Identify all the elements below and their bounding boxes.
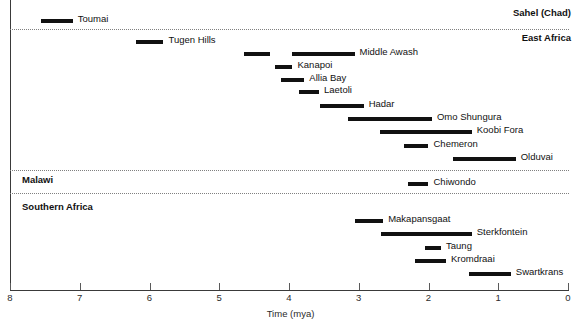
- site-bar-tugen-hills: [136, 40, 164, 44]
- x-tick-2: [429, 283, 430, 290]
- site-label-swartkrans: Swartkrans: [516, 266, 564, 277]
- x-tick-label-1: 1: [496, 292, 501, 303]
- x-tick-label-7: 7: [77, 292, 82, 303]
- divider-divider-1: [10, 29, 569, 30]
- site-label-hadar: Hadar: [369, 98, 395, 109]
- site-bar-swartkrans: [469, 272, 511, 276]
- site-label-kanapoi: Kanapoi: [297, 59, 332, 70]
- site-bar-taung: [425, 246, 441, 250]
- site-bar-kromdraai: [415, 259, 446, 263]
- divider-divider-2: [10, 170, 569, 171]
- site-label-laetoli: Laetoli: [324, 84, 352, 95]
- region-label-malawi: Malawi: [22, 174, 53, 185]
- site-bar-sterkfontein: [381, 232, 472, 236]
- site-label-chemeron: Chemeron: [434, 138, 478, 149]
- site-bar-middle-awash-seg1: [244, 52, 271, 56]
- site-label-olduvai: Olduvai: [521, 151, 553, 162]
- region-label-sahel-chad: Sahel (Chad): [513, 7, 571, 18]
- x-tick-8: [10, 283, 11, 290]
- fossil-site-timeline-chart: 876543210 Sahel (Chad)East AfricaMalawiS…: [0, 0, 581, 325]
- x-tick-0: [568, 283, 569, 290]
- site-label-omo-shungura: Omo Shungura: [437, 111, 501, 122]
- site-label-kromdraai: Kromdraai: [451, 253, 495, 264]
- site-bar-hadar: [320, 104, 363, 108]
- site-bar-middle-awash-seg2: [292, 52, 355, 56]
- region-label-east-africa: East Africa: [522, 32, 571, 43]
- x-tick-3: [359, 283, 360, 290]
- x-tick-1: [498, 283, 499, 290]
- site-label-chiwondo: Chiwondo: [434, 176, 476, 187]
- x-tick-6: [150, 283, 151, 290]
- x-tick-label-6: 6: [147, 292, 152, 303]
- site-label-tugen-hills: Tugen Hills: [168, 34, 215, 45]
- x-tick-5: [219, 283, 220, 290]
- site-bar-allia-bay: [281, 78, 305, 82]
- x-tick-label-5: 5: [217, 292, 222, 303]
- site-bar-toumai: [41, 19, 72, 23]
- divider-divider-3: [10, 193, 569, 194]
- site-bar-koobi-fora: [380, 130, 472, 134]
- site-bar-chiwondo: [408, 182, 429, 186]
- x-axis-title: Time (mya): [0, 308, 581, 319]
- x-tick-label-8: 8: [7, 292, 12, 303]
- x-tick-label-0: 0: [565, 292, 570, 303]
- plot-area: 876543210 Sahel (Chad)East AfricaMalawiS…: [0, 0, 581, 325]
- site-label-allia-bay: Allia Bay: [309, 72, 346, 83]
- site-label-toumai: Toumai: [78, 13, 109, 24]
- region-label-southern-africa: Southern Africa: [22, 201, 93, 212]
- site-bar-olduvai: [453, 157, 516, 161]
- site-bar-omo-shungura: [348, 117, 432, 121]
- x-axis-line: [10, 290, 569, 291]
- y-axis-line: [10, 0, 11, 290]
- x-tick-label-3: 3: [356, 292, 361, 303]
- site-label-sterkfontein: Sterkfontein: [477, 226, 528, 237]
- x-tick-label-4: 4: [286, 292, 291, 303]
- site-label-middle-awash: Middle Awash: [360, 46, 418, 57]
- site-bar-laetoli: [299, 90, 319, 94]
- x-tick-4: [289, 283, 290, 290]
- site-bar-kanapoi: [275, 65, 292, 69]
- x-tick-7: [80, 283, 81, 290]
- site-bar-makapansgaat: [355, 219, 383, 223]
- site-label-koobi-fora: Koobi Fora: [477, 124, 523, 135]
- x-tick-label-2: 2: [426, 292, 431, 303]
- site-label-taung: Taung: [446, 240, 472, 251]
- site-bar-chemeron: [404, 144, 428, 148]
- site-label-makapansgaat: Makapansgaat: [388, 213, 450, 224]
